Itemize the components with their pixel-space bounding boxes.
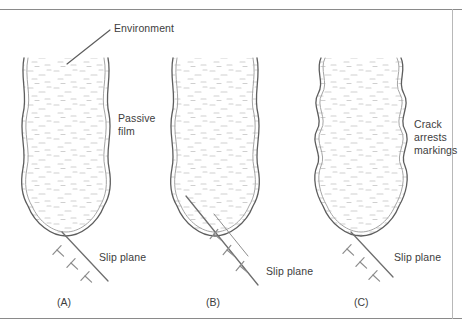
panel-caption-c: (C) bbox=[354, 296, 369, 308]
slip-plane-label-c: Slip plane bbox=[394, 251, 441, 264]
passive-film-label-line1: Passive bbox=[118, 112, 155, 125]
panel-caption-b: (B) bbox=[206, 296, 220, 308]
panel-b-dislocation-symbols bbox=[210, 229, 251, 276]
panel-a-dislocation-symbols bbox=[53, 246, 96, 287]
panel-caption-a: (A) bbox=[57, 296, 71, 308]
figure-container: Environment Passive film Crack arrests m… bbox=[0, 0, 462, 334]
panel-b-crack bbox=[168, 56, 264, 238]
panel-c-dislocation-symbols bbox=[343, 245, 384, 286]
passive-film-label-line2: film bbox=[118, 125, 135, 138]
panel-a-crack bbox=[20, 56, 114, 238]
crack-arrest-label-line2: arrests bbox=[414, 131, 447, 144]
panel-c-slip-plane bbox=[343, 232, 393, 286]
slip-plane-label-a: Slip plane bbox=[99, 251, 146, 264]
environment-label: Environment bbox=[114, 22, 174, 35]
slip-plane-label-b: Slip plane bbox=[266, 265, 313, 278]
panel-c-crack bbox=[308, 56, 416, 238]
crack-arrest-label-line3: markings bbox=[414, 144, 457, 157]
crack-arrest-label-line1: Crack bbox=[414, 118, 442, 131]
diagram-svg bbox=[0, 0, 462, 334]
